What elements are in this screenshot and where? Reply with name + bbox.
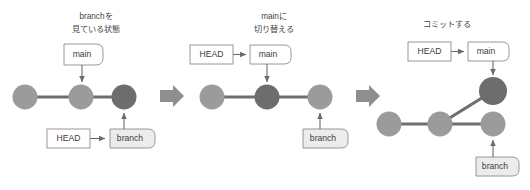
panel-1-caption-line1: branchを xyxy=(79,12,112,21)
commit-node-c xyxy=(112,85,137,110)
branch-ref-label: branch xyxy=(117,133,143,143)
step-arrow-icon xyxy=(160,85,184,107)
commit-node-a xyxy=(377,112,402,137)
commit-node-b xyxy=(69,85,94,110)
head-ref-label: HEAD xyxy=(57,133,81,143)
commit-node-a xyxy=(200,85,225,110)
panel-1-caption-line2: 見ている状態 xyxy=(72,24,120,34)
diagram-canvas: branchを 見ている状態 main HEAD branch xyxy=(0,0,530,190)
panel-3-caption-line1: コミットする xyxy=(423,20,471,29)
panel-1: branchを 見ている状態 main HEAD branch xyxy=(13,12,156,148)
step-arrow-2 xyxy=(356,85,380,107)
commit-node-a xyxy=(13,85,38,110)
panel-3: コミットする HEAD main branch xyxy=(377,20,520,176)
head-ref-label: HEAD xyxy=(418,46,442,56)
step-arrow-1 xyxy=(160,85,184,107)
branch-ref-label: branch xyxy=(482,161,508,171)
commit-node-new xyxy=(479,77,507,105)
commit-node-b xyxy=(428,112,453,137)
commit-node-c xyxy=(308,85,333,110)
main-ref-label: main xyxy=(477,46,496,56)
panel-2-caption-line2: 切り替える xyxy=(254,24,294,34)
main-ref-label: main xyxy=(73,49,92,59)
step-arrow-icon xyxy=(356,85,380,107)
main-ref-label: main xyxy=(259,49,278,59)
commit-node-b xyxy=(255,85,280,110)
branch-ref-label: branch xyxy=(310,133,336,143)
panel-2: mainに 切り替える HEAD main branch xyxy=(190,12,348,148)
head-ref-label: HEAD xyxy=(200,49,224,59)
panel-2-caption-line1: mainに xyxy=(261,12,287,21)
git-branch-diagram: branchを 見ている状態 main HEAD branch xyxy=(0,0,530,190)
commit-node-c xyxy=(481,112,506,137)
